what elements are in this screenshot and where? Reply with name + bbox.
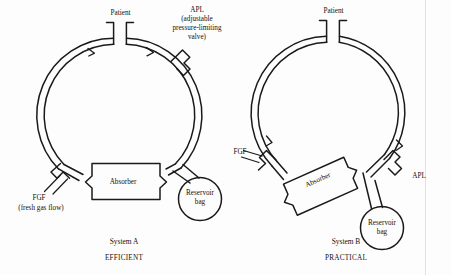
system-a-valve-expiratory-chevron	[88, 49, 95, 57]
system-a-right-connector-inner	[166, 164, 176, 169]
system-b-valve-expiratory-chevron	[266, 136, 272, 146]
system-b-apl-label: APL	[407, 172, 431, 180]
system-b-reservoir-label-line1: Reservoir	[360, 219, 404, 227]
system-b-diagram	[242, 21, 405, 250]
system-b-absorber-box	[278, 155, 364, 218]
system-b-fgf-arrow-2	[242, 157, 260, 163]
system-a-absorber-label: Absorber	[99, 178, 147, 186]
system-b-caption: System B	[320, 238, 372, 246]
system-b-inner-tube-left	[258, 42, 327, 161]
system-a-apl-expansion-line2: pressure-limiting	[155, 24, 239, 32]
system-a-fgf-label: FGF	[18, 194, 60, 202]
system-b-right-connector-inner	[367, 155, 385, 173]
system-b-reservoir-label-line2: bag	[370, 228, 394, 236]
system-a-inner-tube-left	[44, 44, 114, 164]
system-b-left-connector-inner	[277, 162, 287, 174]
system-a-bag-neck-right	[183, 165, 199, 179]
system-b-right-connector-outer	[371, 159, 390, 178]
system-b-bag-neck-right	[375, 181, 383, 208]
system-a-verdict: EFFICIENT	[96, 254, 152, 262]
system-b-bag-neck-left	[363, 173, 372, 209]
system-b-inner-tube-right	[339, 42, 398, 154]
system-b-patient-limb-left	[320, 21, 327, 43]
system-a-apl-label: APL	[175, 6, 219, 14]
system-a-patient-limb-left	[107, 23, 114, 45]
system-b-outer-tube-right	[340, 36, 405, 158]
system-a-caption: System A	[98, 238, 150, 246]
system-a-reservoir-label-line2: bag	[188, 198, 212, 206]
system-a-apl-expansion-line1: (adjustable	[160, 15, 234, 23]
system-a-patient-label: Patient	[98, 9, 143, 17]
system-b-patient-label: Patient	[311, 7, 356, 15]
system-a-apl-expansion-line3: valve)	[172, 33, 222, 41]
system-b-fgf-label: FGF	[228, 148, 252, 156]
system-b-verdict: PRACTICAL	[313, 254, 379, 262]
system-b-patient-limb-right	[339, 21, 346, 43]
system-a-outer-tube-left	[37, 38, 114, 169]
system-a-patient-limb-right	[126, 23, 133, 45]
system-b-outer-tube-left	[251, 36, 326, 166]
system-a-reservoir-label-line1: Reservoir	[178, 189, 222, 197]
system-a-fgf-expansion: (fresh gas flow)	[3, 204, 79, 212]
